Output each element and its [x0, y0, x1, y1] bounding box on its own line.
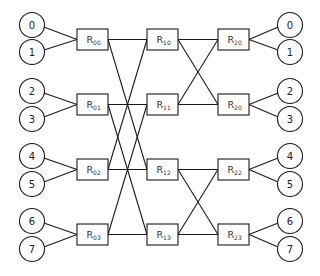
router-r12: R12: [147, 159, 178, 180]
node-label: 2: [29, 86, 35, 97]
output-node-5: 5: [278, 172, 303, 197]
output-node-0: 0: [278, 13, 303, 38]
node-label: 0: [287, 20, 293, 31]
router-r11: R11: [147, 94, 178, 115]
input-node-1: 1: [20, 40, 45, 65]
router-r13: R13: [147, 224, 178, 245]
link-in-6: [44, 223, 77, 235]
link-in-2: [44, 93, 77, 105]
output-node-1: 1: [278, 40, 303, 65]
router-r00: R00: [77, 29, 108, 50]
node-label: 5: [287, 179, 293, 190]
link-in-4: [44, 158, 77, 170]
output-node-7: 7: [278, 237, 303, 262]
router-r20a: R20: [218, 29, 249, 50]
link-out-0: [249, 27, 278, 40]
link-in-1: [44, 40, 77, 51]
link-in-7: [44, 235, 77, 248]
link-in-0: [44, 27, 77, 40]
node-label: 7: [29, 244, 35, 255]
router-r02: R02: [77, 159, 108, 180]
input-node-0: 0: [20, 13, 45, 38]
router-r03: R03: [77, 224, 108, 245]
output-node-3: 3: [278, 107, 303, 132]
node-label: 3: [287, 114, 293, 125]
output-node-6: 6: [278, 209, 303, 234]
links-layer: [44, 27, 278, 247]
output-node-4: 4: [278, 144, 303, 169]
link-out-3: [249, 105, 278, 118]
node-label: 1: [29, 47, 35, 58]
router-r20b: R20: [218, 94, 249, 115]
routers-layer: R00R01R02R03R10R11R12R13R20R20R22R23: [77, 29, 249, 245]
input-node-3: 3: [20, 107, 45, 132]
node-label: 4: [287, 151, 293, 162]
butterfly-network-diagram: R00R01R02R03R10R11R12R13R20R20R22R23 012…: [0, 0, 320, 276]
node-label: 6: [29, 216, 35, 227]
input-node-5: 5: [20, 172, 45, 197]
link-out-2: [249, 93, 278, 105]
router-r10: R10: [147, 29, 178, 50]
router-r01: R01: [77, 94, 108, 115]
link-out-5: [249, 170, 278, 183]
output-node-2: 2: [278, 79, 303, 104]
router-r22: R22: [218, 159, 249, 180]
link-out-4: [249, 158, 278, 170]
node-label: 5: [29, 179, 35, 190]
input-node-4: 4: [20, 144, 45, 169]
link-out-7: [249, 235, 278, 248]
link-in-5: [44, 170, 77, 183]
node-label: 3: [29, 114, 35, 125]
link-in-3: [44, 105, 77, 118]
input-node-7: 7: [20, 237, 45, 262]
router-r23: R23: [218, 224, 249, 245]
node-label: 4: [29, 151, 35, 162]
node-label: 7: [287, 244, 293, 255]
link-out-6: [249, 223, 278, 235]
input-node-2: 2: [20, 79, 45, 104]
node-label: 0: [29, 20, 35, 31]
node-label: 2: [287, 86, 293, 97]
input-node-6: 6: [20, 209, 45, 234]
node-label: 1: [287, 47, 293, 58]
node-label: 6: [287, 216, 293, 227]
link-out-1: [249, 40, 278, 51]
